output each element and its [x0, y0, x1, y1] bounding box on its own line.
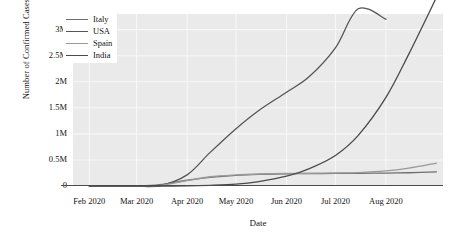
- x-tick-label: Apr 2020: [171, 196, 203, 206]
- legend-item-usa[interactable]: USA: [66, 25, 112, 37]
- legend-swatch-icon: [66, 31, 88, 32]
- y-tick-label: 3M: [0, 24, 67, 34]
- legend-label: Italy: [93, 13, 109, 25]
- x-tick-label: Aug 2020: [369, 196, 403, 206]
- legend-swatch-icon: [66, 19, 88, 20]
- legend-item-spain[interactable]: Spain: [66, 37, 112, 49]
- chart-legend: ItalyUSASpainIndia: [63, 11, 117, 63]
- legend-label: India: [93, 49, 110, 61]
- x-tick-label: Jul 2020: [321, 196, 350, 206]
- y-tick-label: 1M: [0, 128, 67, 138]
- series-lines: [73, 14, 443, 186]
- x-axis-tick-labels: Feb 2020Mar 2020Apr 2020May 2020Jun 2020…: [0, 190, 460, 206]
- legend-swatch-icon: [66, 43, 88, 44]
- legend-swatch-icon: [66, 55, 88, 56]
- legend-item-italy[interactable]: Italy: [66, 13, 112, 25]
- y-tick-label: 1.5M: [0, 102, 67, 112]
- series-line: [89, 0, 436, 186]
- x-axis-title: Date: [73, 218, 443, 228]
- legend-label: USA: [93, 25, 110, 37]
- x-tick-label: Feb 2020: [73, 196, 105, 206]
- y-tick-label: 2M: [0, 76, 67, 86]
- x-tick-label: Mar 2020: [120, 196, 153, 206]
- x-tick-label: Jun 2020: [271, 196, 302, 206]
- legend-label: Spain: [93, 37, 112, 49]
- legend-item-india[interactable]: India: [66, 49, 112, 61]
- y-tick-label: 0.5M: [0, 154, 67, 164]
- y-tick-label: 2.5M: [0, 50, 67, 60]
- x-axis-line: [61, 185, 443, 186]
- series-line: [89, 8, 386, 187]
- x-tick-label: May 2020: [219, 196, 254, 206]
- plot-area: [73, 14, 443, 186]
- chart-figure: Number of Confirmed Cases 00.5M1M1.5M2M2…: [0, 0, 460, 239]
- y-tick-label: 0: [0, 180, 67, 190]
